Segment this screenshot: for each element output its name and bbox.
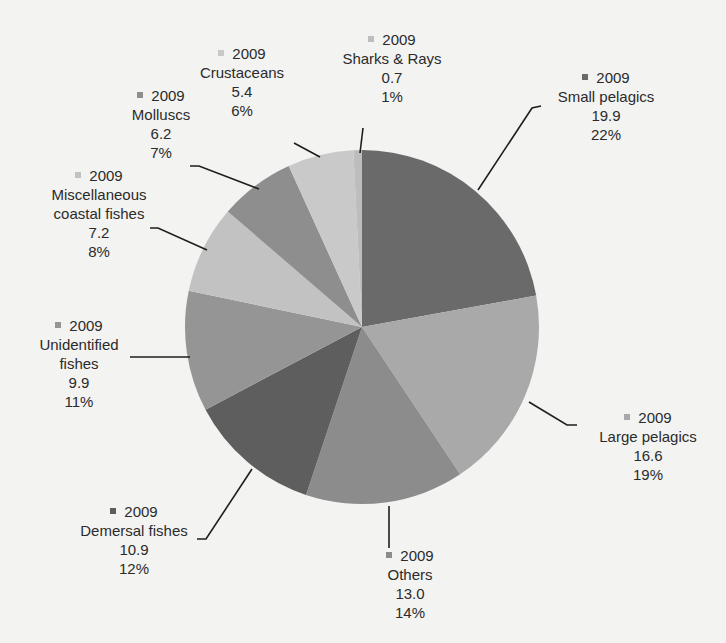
label-name: Miscellaneous (34, 185, 164, 204)
label-year: 2009 (596, 69, 629, 86)
legend-swatch-large-pelagics (624, 414, 630, 420)
label-value: 9.9 (24, 373, 134, 392)
label-sharks-rays: 2009 Sharks & Rays 0.7 1% (332, 30, 452, 106)
legend-swatch-unidentified-fishes (55, 322, 61, 328)
label-percent: 14% (370, 603, 450, 622)
label-year: 2009 (124, 503, 157, 520)
legend-swatch-misc-coastal-fishes (75, 172, 81, 178)
legend-swatch-others (386, 552, 392, 558)
label-name: Small pelagics (536, 87, 676, 106)
label-small-pelagics: 2009 Small pelagics 19.9 22% (536, 68, 676, 144)
label-value: 0.7 (332, 68, 452, 87)
label-name: Large pelagics (578, 427, 718, 446)
label-year: 2009 (382, 31, 415, 48)
pie-slices (185, 150, 539, 504)
label-value: 7.2 (34, 223, 164, 242)
label-unidentified-fishes: 2009 Unidentified fishes 9.9 11% (24, 316, 134, 411)
label-year: 2009 (151, 87, 184, 104)
label-misc-coastal-fishes: 2009 Miscellaneous coastal fishes 7.2 8% (34, 166, 164, 261)
legend-swatch-crustaceans (218, 50, 224, 56)
label-name-line2: fishes (24, 354, 134, 373)
label-name: Sharks & Rays (332, 49, 452, 68)
label-percent: 7% (116, 143, 206, 162)
label-value: 16.6 (578, 446, 718, 465)
label-value: 19.9 (536, 106, 676, 125)
label-value: 13.0 (370, 584, 450, 603)
legend-swatch-small-pelagics (582, 74, 588, 80)
label-demersal-fishes: 2009 Demersal fishes 10.9 12% (64, 502, 204, 578)
leader-line-demersal (197, 469, 252, 539)
leader-line-crustaceans (294, 143, 320, 157)
label-name: Others (370, 565, 450, 584)
legend-swatch-molluscs (137, 92, 143, 98)
label-others: 2009 Others 13.0 14% (370, 546, 450, 622)
label-name: Demersal fishes (64, 521, 204, 540)
label-value: 6.2 (116, 124, 206, 143)
legend-swatch-sharks-rays (368, 36, 374, 42)
legend-swatch-demersal-fishes (110, 508, 116, 514)
label-percent: 22% (536, 125, 676, 144)
label-percent: 12% (64, 559, 204, 578)
label-name: Crustaceans (192, 63, 292, 82)
label-percent: 8% (34, 242, 164, 261)
label-percent: 6% (192, 101, 292, 120)
label-year: 2009 (89, 167, 122, 184)
label-year: 2009 (69, 317, 102, 334)
leader-line-molluscs (190, 166, 259, 189)
label-year: 2009 (232, 45, 265, 62)
label-value: 10.9 (64, 540, 204, 559)
label-year: 2009 (638, 409, 671, 426)
label-value: 5.4 (192, 82, 292, 101)
label-name-line2: coastal fishes (34, 204, 164, 223)
label-name: Unidentified (24, 335, 134, 354)
leader-line-large-pelagics (529, 402, 577, 425)
label-percent: 1% (332, 87, 452, 106)
label-large-pelagics: 2009 Large pelagics 16.6 19% (578, 408, 718, 484)
label-crustaceans: 2009 Crustaceans 5.4 6% (192, 44, 292, 120)
label-year: 2009 (400, 547, 433, 564)
label-percent: 19% (578, 465, 718, 484)
leader-line-sharks (360, 128, 363, 153)
label-percent: 11% (24, 392, 134, 411)
leader-line-small-pelagics (478, 106, 541, 190)
